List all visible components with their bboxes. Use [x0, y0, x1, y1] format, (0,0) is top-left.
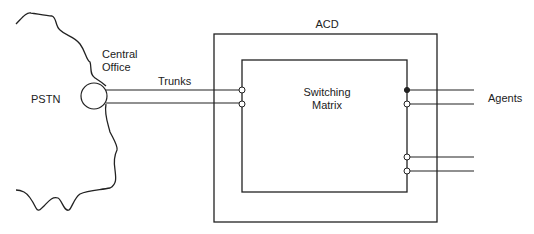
switching-matrix-label-line1: Switching: [292, 86, 362, 99]
pstn-cloud-edge: [16, 13, 117, 210]
switching-matrix-label-line2: Matrix: [292, 99, 362, 112]
pstn-label: PSTN: [31, 93, 60, 106]
acd-box: [214, 34, 437, 222]
agent-connector-3: [404, 154, 410, 160]
acd-diagram: [0, 0, 534, 234]
central-office-label-line2: Office: [102, 61, 131, 74]
agent-connector-2: [404, 101, 410, 107]
switching-matrix-box: [242, 60, 407, 192]
acd-label: ACD: [307, 18, 347, 31]
central-office-label-line1: Central: [102, 48, 137, 61]
agent-connector-4: [404, 168, 410, 174]
trunk-connector-2: [239, 101, 245, 107]
central-office-circle: [81, 83, 107, 109]
trunk-connector-1: [239, 87, 245, 93]
agent-connector-1: [404, 87, 409, 92]
trunks-label: Trunks: [158, 75, 191, 88]
agents-label: Agents: [488, 92, 522, 105]
